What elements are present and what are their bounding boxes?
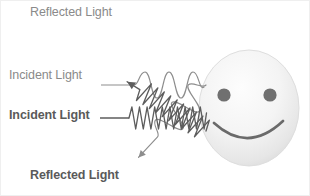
label-incident-light-top: Incident Light [9, 68, 82, 82]
incident-long-wave-path [134, 72, 204, 98]
smiley-face-group [199, 50, 299, 166]
left-eye-icon [217, 88, 230, 101]
label-reflected-light-top: Reflected Light [30, 5, 112, 19]
reflected-short-wave-arrowhead-icon [125, 78, 136, 89]
right-eye-icon [263, 88, 276, 101]
diagram-artwork [1, 1, 310, 196]
label-incident-light-bottom: Incident Light [9, 108, 90, 122]
face-disc [199, 50, 299, 166]
figure-canvas: Reflected Light Incident Light Incident … [0, 0, 310, 196]
label-reflected-light-bottom: Reflected Light [30, 168, 119, 182]
